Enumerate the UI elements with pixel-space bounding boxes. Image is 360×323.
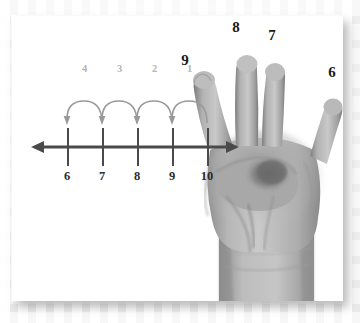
illustration-stage: 6 7 8 9 10 4 3 2 1 9 8 7 6	[0, 0, 360, 323]
tick-label-9: 9	[169, 169, 175, 184]
tick-mark	[67, 128, 69, 166]
jump-arcs	[29, 61, 241, 121]
finger-label-6: 6	[328, 64, 336, 81]
axis-line	[29, 139, 241, 155]
tick-label-10: 10	[201, 169, 214, 184]
tick-label-7: 7	[99, 169, 105, 184]
tick-mark	[207, 128, 209, 166]
jump-label-3: 3	[117, 63, 122, 74]
finger-label-9: 9	[181, 52, 189, 69]
tick-label-6: 6	[64, 169, 70, 184]
tick-mark	[137, 128, 139, 166]
tick-label-8: 8	[134, 169, 140, 184]
finger-label-8: 8	[232, 19, 240, 36]
finger-label-7: 7	[268, 27, 276, 44]
jump-label-4: 4	[82, 63, 87, 74]
tick-mark	[172, 128, 174, 166]
jump-label-2: 2	[152, 63, 157, 74]
tick-mark	[102, 128, 104, 166]
white-photo-card: 6 7 8 9 10 4 3 2 1 9 8 7 6	[12, 16, 343, 301]
number-line: 6 7 8 9 10 4 3 2 1	[29, 123, 241, 139]
